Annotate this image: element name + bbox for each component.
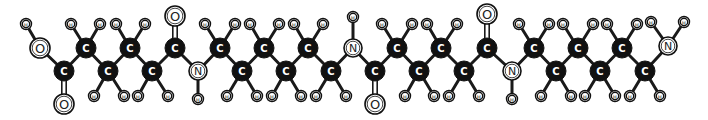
hydrogen-atom: H (140, 19, 151, 30)
nitrogen-atom: N (344, 39, 362, 57)
hydrogen-atom: H (646, 17, 657, 28)
hydrogen-atom: H (544, 19, 555, 30)
carbon-atom: C (387, 38, 407, 58)
atom-label: H (321, 22, 325, 28)
carbon-atom: C (546, 61, 566, 81)
hydrogen-atom: H (566, 91, 577, 102)
oxygen-atom: O (54, 94, 74, 114)
atom-label: H (122, 94, 126, 100)
atom-label: C (483, 43, 490, 54)
hydrogen-atom: H (200, 19, 211, 30)
atom-label: N (664, 40, 672, 53)
atom-label: C (415, 66, 422, 77)
atom-label: N (194, 65, 202, 78)
atom-label: C (260, 43, 267, 54)
hydrogen-atom: H (452, 19, 463, 30)
atom-label: H (270, 94, 274, 100)
atom-label: H (255, 94, 259, 100)
atom-label: H (591, 22, 595, 28)
atom-label: H (299, 94, 303, 100)
atom-label: O (482, 7, 492, 22)
carbon-atom: C (409, 61, 429, 81)
atom-label: H (225, 94, 229, 100)
carbon-atom: C (321, 61, 341, 81)
hydrogen-atom: H (21, 19, 32, 30)
atom-label: C (460, 66, 467, 77)
hydrogen-atom: H (400, 91, 411, 102)
atom-label: H (380, 22, 384, 28)
atom-label: C (596, 66, 603, 77)
atom-label: H (455, 22, 459, 28)
atom-label: H (136, 94, 140, 100)
atom-label: H (477, 94, 481, 100)
atom-label: H (114, 22, 118, 28)
atom-label: C (393, 43, 400, 54)
atom-label: C (371, 66, 378, 77)
atom-label: H (635, 22, 639, 28)
atom-label: H (203, 22, 207, 28)
hydrogen-atom: H (625, 91, 636, 102)
atom-label: H (24, 22, 28, 28)
atom-label: H (196, 97, 200, 103)
carbon-atom: C (120, 38, 140, 58)
atom-label: O (59, 97, 69, 112)
oxygen-atom: O (365, 94, 385, 114)
atom-label: C (552, 66, 559, 77)
hydrogen-atom: H (536, 91, 547, 102)
hydrogen-atom: H (193, 94, 204, 105)
atom-label: C (574, 43, 581, 54)
hydrogen-atom: H (252, 91, 263, 102)
atom-label: C (641, 66, 648, 77)
carbon-atom: C (54, 61, 74, 81)
carbon-atom: C (612, 38, 632, 58)
atom-label: H (69, 22, 73, 28)
hydrogen-atom: H (163, 91, 174, 102)
hydrogen-atom: H (407, 19, 418, 30)
hydrogen-atom: H (119, 91, 130, 102)
hydrogen-atom: H (558, 19, 569, 30)
oxygen-atom: O (30, 38, 50, 58)
atom-label: H (613, 94, 617, 100)
hydrogen-atom: H (296, 91, 307, 102)
oxygen-atom: O (165, 6, 185, 26)
atom-label: H (292, 22, 296, 28)
hydrogen-atom: H (507, 94, 518, 105)
atom-label: N (349, 42, 357, 55)
nitrogen-atom: N (503, 62, 521, 80)
hydrogen-atom: H (89, 91, 100, 102)
carbon-atom: C (635, 61, 655, 81)
atom-label: H (539, 94, 543, 100)
carbon-atom: C (165, 38, 185, 58)
hydrogen-atom: H (245, 19, 256, 30)
atom-label: H (98, 22, 102, 28)
atom-label: C (618, 43, 625, 54)
atom-label: C (437, 43, 444, 54)
hydrogen-atom: H (95, 19, 106, 30)
atom-label: C (216, 43, 223, 54)
atom-label: H (517, 22, 521, 28)
hydrogen-atom: H (679, 17, 690, 28)
carbon-atom: C (210, 38, 230, 58)
hydrogen-atom: H (318, 19, 329, 30)
hydrogen-atom: H (289, 19, 300, 30)
hydrogen-atom: H (66, 19, 77, 30)
hydrogen-atom: H (429, 91, 440, 102)
hydrogen-atom: H (580, 91, 591, 102)
atom-label: H (314, 94, 318, 100)
atom-label: H (344, 94, 348, 100)
atom-label: N (508, 65, 516, 78)
hydrogen-atom: H (602, 19, 613, 30)
atom-label: C (171, 43, 178, 54)
atom-label: H (432, 94, 436, 100)
hydrogen-atom: H (444, 91, 455, 102)
carbon-atom: C (142, 61, 162, 81)
carbon-atom: C (254, 38, 274, 58)
carbon-atom: C (365, 61, 385, 81)
atom-label: H (277, 22, 281, 28)
carbon-atom: C (524, 38, 544, 58)
hydrogen-atom: H (311, 91, 322, 102)
atom-label: H (649, 20, 653, 26)
hydrogen-atom: H (348, 12, 359, 23)
atom-label: H (403, 94, 407, 100)
atom-label: C (282, 66, 289, 77)
